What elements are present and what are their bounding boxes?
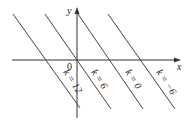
label-k-12: k = 12 [61,67,84,95]
line-k-0 [78,14,143,109]
label-k-0: k = 0 [123,67,144,91]
y-axis-arrow-icon [75,7,80,14]
x-axis-label: x [176,61,182,72]
line-k-6 [45,14,111,109]
y-axis-label: y [66,5,72,16]
coordinate-diagram: x y 0 k = 12 k = 6 k = 0 k = −6 [0,0,190,124]
label-k-neg6: k = −6 [154,67,178,96]
line-k-neg6 [108,14,175,109]
label-k-6: k = 6 [89,67,110,91]
